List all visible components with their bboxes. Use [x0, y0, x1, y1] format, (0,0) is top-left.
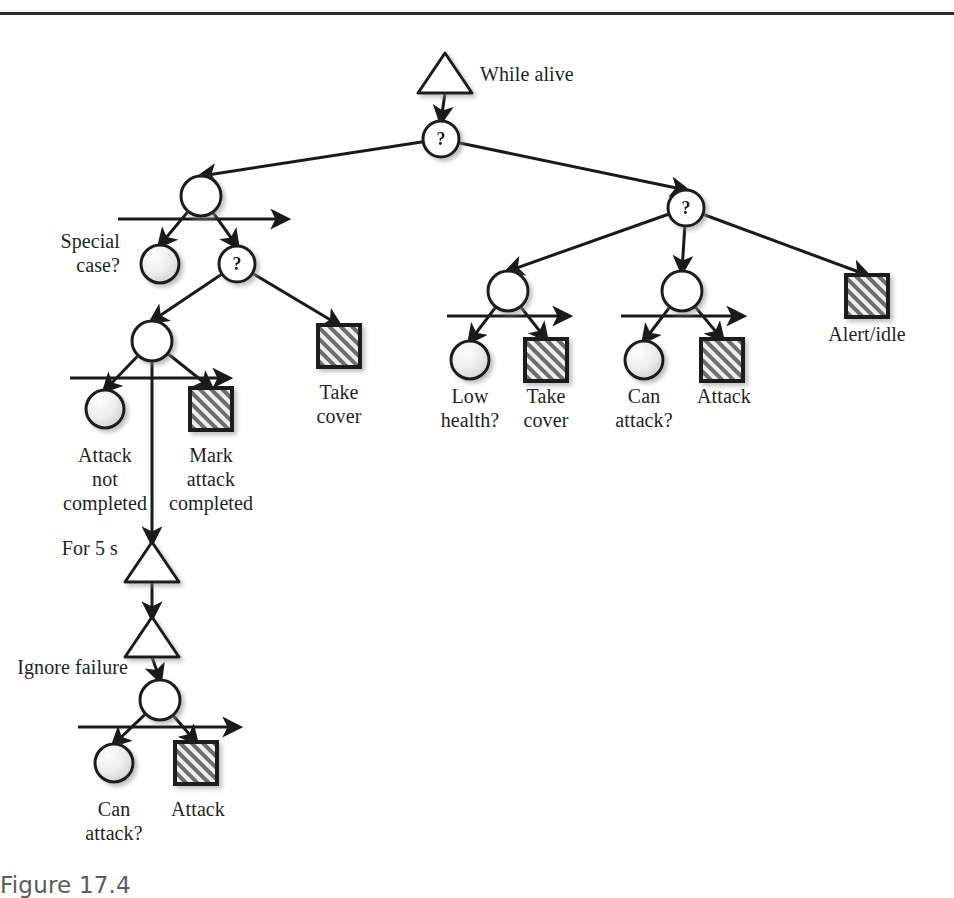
- node-label: For 5 s: [62, 536, 118, 560]
- action-square: [175, 742, 217, 784]
- condition-circle: [86, 390, 124, 428]
- bt-node-sequence[interactable]: [181, 176, 221, 216]
- bt-node-decorator[interactable]: [125, 617, 179, 657]
- tree-edge: [213, 212, 237, 246]
- node-label: Can attack?: [85, 797, 142, 845]
- bt-node-condition[interactable]: [625, 341, 663, 379]
- sequence-circle: [181, 176, 221, 216]
- tree-edge: [105, 355, 138, 390]
- tree-edge: [114, 714, 146, 744]
- bt-node-action[interactable]: [701, 339, 743, 381]
- tree-edge: [470, 307, 496, 341]
- node-label: Special case?: [60, 229, 120, 277]
- bt-node-sequence[interactable]: [132, 321, 172, 361]
- tree-edge: [160, 211, 188, 245]
- condition-circle: [625, 341, 663, 379]
- sequence-circle: [140, 680, 180, 720]
- node-label: While alive: [480, 62, 574, 86]
- bt-node-action[interactable]: [318, 325, 360, 367]
- tree-edge: [682, 226, 685, 271]
- bt-node-selector[interactable]: ?: [219, 246, 255, 282]
- condition-circle: [451, 341, 489, 379]
- tree-edge: [252, 273, 339, 325]
- tree-edge: [441, 93, 445, 121]
- decorator-triangle: [418, 53, 472, 93]
- bt-node-decorator[interactable]: [418, 53, 472, 93]
- decorator-triangle: [125, 617, 179, 657]
- action-square: [190, 388, 232, 430]
- sequence-circle: [132, 321, 172, 361]
- tree-edge: [152, 657, 160, 680]
- bt-node-action[interactable]: [175, 742, 217, 784]
- tree-edge: [703, 214, 867, 275]
- condition-circle: [141, 245, 179, 283]
- tree-edge: [644, 307, 670, 341]
- bt-node-action[interactable]: [525, 339, 567, 381]
- node-label: Alert/idle: [828, 322, 906, 346]
- selector-question-mark: ?: [437, 129, 446, 149]
- tree-edge: [201, 142, 423, 176]
- sequence-circle: [488, 271, 528, 311]
- bt-node-selector[interactable]: ?: [423, 121, 459, 157]
- tree-edge: [695, 306, 722, 339]
- action-square: [846, 275, 888, 317]
- decorator-triangle: [125, 542, 179, 582]
- bt-node-condition[interactable]: [451, 341, 489, 379]
- bt-node-selector[interactable]: ?: [668, 190, 704, 226]
- node-label: Mark attack completed: [169, 443, 253, 515]
- bt-node-sequence[interactable]: [662, 271, 702, 311]
- node-label: Can attack?: [615, 384, 672, 432]
- node-label: Attack: [697, 384, 751, 408]
- node-label: Ignore failure: [17, 655, 128, 679]
- selector-question-mark: ?: [233, 254, 242, 274]
- tree-edge: [173, 715, 196, 742]
- bt-node-decorator[interactable]: [125, 542, 179, 582]
- condition-circle: [95, 744, 133, 782]
- sequence-circle: [662, 271, 702, 311]
- bt-node-condition[interactable]: [141, 245, 179, 283]
- node-label: Low health?: [441, 384, 499, 432]
- bt-node-action[interactable]: [190, 388, 232, 430]
- bt-node-action[interactable]: [846, 275, 888, 317]
- node-label: Take cover: [317, 380, 362, 428]
- figure-caption: Figure 17.4: [0, 872, 131, 898]
- node-label: Take cover: [524, 384, 569, 432]
- tree-edge: [508, 214, 669, 271]
- bt-node-sequence[interactable]: [140, 680, 180, 720]
- node-label: Attack: [171, 797, 225, 821]
- tree-edge: [520, 307, 546, 339]
- action-square: [318, 325, 360, 367]
- tree-edge: [459, 143, 686, 190]
- bt-node-condition[interactable]: [86, 390, 124, 428]
- selector-question-mark: ?: [682, 198, 691, 218]
- bt-node-condition[interactable]: [95, 744, 133, 782]
- node-label: Attack not completed: [63, 443, 147, 515]
- tree-edge: [168, 353, 211, 388]
- action-square: [701, 339, 743, 381]
- action-square: [525, 339, 567, 381]
- bt-node-sequence[interactable]: [488, 271, 528, 311]
